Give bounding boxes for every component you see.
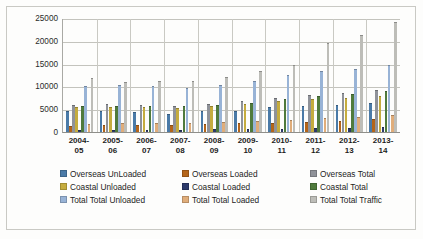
bar	[192, 81, 195, 132]
bar-group	[130, 19, 164, 132]
bar	[210, 106, 213, 132]
legend-label: Overseas Loaded	[192, 169, 258, 179]
legend-color-swatch-icon	[182, 183, 189, 190]
bar	[158, 81, 161, 132]
legend-row: Coastal UnloadedCoastal LoadedCoastal To…	[60, 181, 390, 192]
bar	[327, 43, 330, 132]
x-axis-tick-label: 2007-08	[163, 136, 197, 162]
bar-group	[232, 19, 266, 132]
bar	[259, 71, 262, 132]
legend-item[interactable]: Total Total Traffic	[310, 195, 382, 205]
legend-color-swatch-icon	[182, 196, 189, 203]
y-axis-tick-label: 20000	[4, 38, 58, 46]
y-axis-tick-label: 0	[4, 129, 58, 137]
bar-group	[198, 19, 232, 132]
legend-item[interactable]: Coastal Unloaded	[60, 182, 182, 192]
bar	[293, 65, 296, 132]
bar	[91, 78, 94, 132]
legend-row: Overseas UnLoadedOverseas LoadedOverseas…	[60, 168, 390, 179]
legend-item[interactable]: Coastal Total	[310, 182, 368, 192]
legend-label: Coastal Total	[320, 182, 368, 192]
x-axis-tick-label: 2005-06	[96, 136, 130, 162]
legend-color-swatch-icon	[310, 183, 317, 190]
x-axis-tick-label: 2006-07	[130, 136, 164, 162]
bar	[345, 98, 348, 132]
y-axis-labels: 2500020000150001000050000	[0, 19, 58, 133]
legend-color-swatch-icon	[182, 170, 189, 177]
bar	[394, 22, 397, 132]
legend-label: Total Total Traffic	[320, 195, 382, 205]
plot-area	[62, 19, 400, 133]
bar	[225, 77, 228, 132]
x-axis-tick-label: 2012-13	[332, 136, 366, 162]
legend-label: Total Total Unloaded	[70, 195, 145, 205]
legend-item[interactable]: Coastal Loaded	[182, 182, 310, 192]
bar	[360, 35, 363, 132]
legend-row: Total Total UnloadedTotal Total LoadedTo…	[60, 194, 390, 205]
y-axis-tick-label: 15000	[4, 61, 58, 69]
bar	[109, 107, 112, 132]
y-axis-tick-label: 5000	[4, 106, 58, 114]
bar	[143, 107, 146, 132]
bar-groups	[63, 19, 400, 132]
y-axis-tick-label: 10000	[4, 83, 58, 91]
bar	[277, 101, 280, 132]
bar	[75, 107, 78, 132]
legend-color-swatch-icon	[60, 183, 67, 190]
bar-group	[366, 19, 400, 132]
legend-label: Coastal Unloaded	[70, 182, 136, 192]
bar-group	[265, 19, 299, 132]
legend-color-swatch-icon	[310, 196, 317, 203]
x-axis-tick-label: 2008-09	[197, 136, 231, 162]
x-axis-tick-label: 2013-14	[366, 136, 400, 162]
legend-label: Coastal Loaded	[192, 182, 250, 192]
bar	[124, 82, 127, 132]
chart-legend: Overseas UnLoadedOverseas LoadedOverseas…	[60, 168, 390, 207]
legend-item[interactable]: Overseas Loaded	[182, 169, 310, 179]
legend-label: Overseas UnLoaded	[70, 169, 146, 179]
bar-group	[164, 19, 198, 132]
legend-color-swatch-icon	[60, 196, 67, 203]
x-axis-tick-label: 2010-11	[265, 136, 299, 162]
legend-color-swatch-icon	[60, 170, 67, 177]
x-axis-tick-label: 2011-12	[299, 136, 333, 162]
x-axis-tick-label: 2009-10	[231, 136, 265, 162]
legend-item[interactable]: Overseas Total	[310, 169, 375, 179]
legend-item[interactable]: Total Total Loaded	[182, 195, 310, 205]
bar	[244, 104, 247, 132]
x-axis-tick-label: 2004-05	[62, 136, 96, 162]
bar-group	[333, 19, 367, 132]
bar-group	[97, 19, 131, 132]
bar-group	[63, 19, 97, 132]
legend-color-swatch-icon	[310, 170, 317, 177]
chart-screenshot: 2500020000150001000050000 2004-052005-06…	[0, 0, 423, 239]
bar	[311, 99, 314, 132]
bar-group	[299, 19, 333, 132]
legend-item[interactable]: Total Total Unloaded	[60, 195, 182, 205]
x-axis-labels: 2004-052005-062006-072007-082008-092009-…	[62, 136, 400, 162]
legend-label: Overseas Total	[320, 169, 375, 179]
bar	[176, 108, 179, 132]
y-axis-tick-label: 25000	[4, 15, 58, 23]
legend-label: Total Total Loaded	[192, 195, 259, 205]
legend-item[interactable]: Overseas UnLoaded	[60, 169, 182, 179]
